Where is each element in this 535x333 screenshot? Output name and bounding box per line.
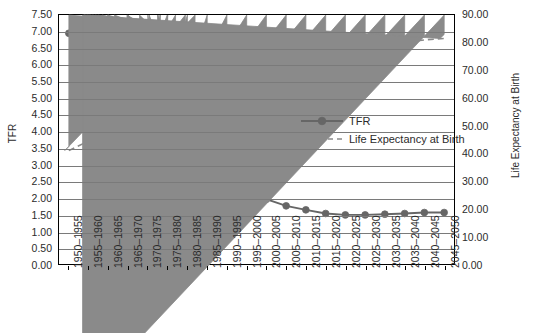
- x-axis-tick-label: 2030–2035: [390, 215, 402, 268]
- x-axis-tick-label: 2040–2045: [429, 215, 441, 268]
- x-axis-tick-label: 2000–2005: [270, 215, 282, 268]
- y-axis-left-tick-label: 1.00: [8, 227, 52, 238]
- x-axis-tick-label: 1995–2000: [251, 215, 263, 268]
- x-axis-tick-label: 2005–2010: [290, 215, 302, 268]
- x-axis-tick: [405, 266, 406, 270]
- gridline: [59, 82, 454, 83]
- x-axis-tick-label: 2010–2015: [310, 215, 322, 268]
- y-axis-right-tick-label: 0.00: [462, 260, 510, 271]
- x-axis-tick: [247, 266, 248, 270]
- y-axis-right-tick-label: 60.00: [462, 93, 510, 104]
- x-axis-tick: [286, 266, 287, 270]
- y-axis-right-tick-label: 40.00: [462, 148, 510, 159]
- legend-diamond-icon: [300, 132, 344, 146]
- y-axis-left-tick-label: 6.00: [8, 59, 52, 70]
- x-axis-tick: [88, 266, 89, 270]
- x-axis-tick-label: 1955–1960: [92, 215, 104, 268]
- x-axis-tick: [306, 266, 307, 270]
- data-point: [302, 206, 309, 213]
- x-axis-tick: [425, 266, 426, 270]
- x-axis-tick: [147, 266, 148, 270]
- x-axis-tick: [187, 266, 188, 270]
- x-axis-tick: [326, 266, 327, 270]
- y-axis-left-tick-label: 6.50: [8, 43, 52, 54]
- y-axis-right-tick-label: 90.00: [462, 9, 510, 20]
- y-axis-right-tick-label: 20.00: [462, 204, 510, 215]
- x-axis-tick: [68, 266, 69, 270]
- gridline: [59, 166, 454, 167]
- y-axis-right-tick-label: 50.00: [462, 121, 510, 132]
- y-axis-left-tick-label: 3.50: [8, 143, 52, 154]
- x-axis-tick-label: 1975–1980: [171, 215, 183, 268]
- y-axis-left-tick-label: 0.50: [8, 243, 52, 254]
- x-axis-tick: [386, 266, 387, 270]
- y-axis-left-tick-label: 4.00: [8, 126, 52, 137]
- legend-circle-icon: [300, 114, 344, 128]
- y-axis-left-tick-label: 4.50: [8, 109, 52, 120]
- gridline: [59, 65, 454, 66]
- x-axis-tick-label: 2025–2030: [370, 215, 382, 268]
- x-axis-tick-label: 2015–2020: [330, 215, 342, 268]
- y-axis-left-tick-label: 0.00: [8, 260, 52, 271]
- x-axis-tick: [445, 266, 446, 270]
- x-axis-tick-label: 1965–1970: [132, 215, 144, 268]
- y-axis-left-tick-label: 2.50: [8, 176, 52, 187]
- gridline: [59, 99, 454, 100]
- y-axis-left-tick-label: 7.00: [8, 26, 52, 37]
- chart-legend: TFRLife Expectancy at Birth: [300, 112, 465, 148]
- x-axis-tick-label: 1980–1985: [191, 215, 203, 268]
- gridline: [59, 149, 454, 150]
- x-axis-tick-label: 2045–2050: [449, 215, 461, 268]
- x-axis-tick-label: 1990–1995: [231, 215, 243, 268]
- y-axis-right-tick-label: 30.00: [462, 176, 510, 187]
- x-axis-tick: [227, 266, 228, 270]
- y-axis-left-tick-label: 5.00: [8, 93, 52, 104]
- x-axis-tick: [108, 266, 109, 270]
- x-axis-tick-label: 1960–1965: [112, 215, 124, 268]
- y-axis-right-tick-label: 10.00: [462, 232, 510, 243]
- chart-container: TFR Life Expectancy at Birth 0.000.501.0…: [0, 0, 535, 333]
- x-axis-tick: [366, 266, 367, 270]
- y-axis-left-tick-label: 3.00: [8, 160, 52, 171]
- y-axis-left-tick-label: 5.50: [8, 76, 52, 87]
- y-axis-left-tick-label: 7.50: [8, 9, 52, 20]
- y-axis-left-ticks: 0.000.501.001.502.002.503.003.504.004.50…: [4, 0, 52, 333]
- gridline: [59, 32, 454, 33]
- x-axis-tick-label: 2035–2040: [409, 215, 421, 268]
- y-axis-left-tick-label: 2.00: [8, 193, 52, 204]
- legend-entry: TFR: [300, 112, 465, 130]
- x-axis-tick: [128, 266, 129, 270]
- gridline: [59, 199, 454, 200]
- x-axis-tick-label: 1985–1990: [211, 215, 223, 268]
- x-axis-tick: [266, 266, 267, 270]
- x-axis-tick: [207, 266, 208, 270]
- x-axis-tick-label: 1970–1975: [151, 215, 163, 268]
- x-axis-tick: [167, 266, 168, 270]
- legend-entry: Life Expectancy at Birth: [300, 130, 465, 148]
- gridline: [59, 49, 454, 50]
- data-point: [283, 202, 290, 209]
- y-axis-left-tick-label: 1.50: [8, 210, 52, 221]
- gridline: [59, 182, 454, 183]
- y-axis-right-ticks: 0.0010.0020.0030.0040.0050.0060.0070.008…: [462, 0, 512, 333]
- x-axis-tick: [346, 266, 347, 270]
- legend-label: Life Expectancy at Birth: [349, 133, 465, 145]
- x-axis-tick-label: 1950–1955: [72, 215, 84, 268]
- x-axis-tick-label: 2020–2025: [350, 215, 362, 268]
- y-axis-right-tick-label: 80.00: [462, 37, 510, 48]
- y-axis-right-tick-label: 70.00: [462, 65, 510, 76]
- legend-label: TFR: [349, 115, 370, 127]
- x-axis-labels: 1950–19551955–19601960–19651965–19701970…: [58, 266, 455, 333]
